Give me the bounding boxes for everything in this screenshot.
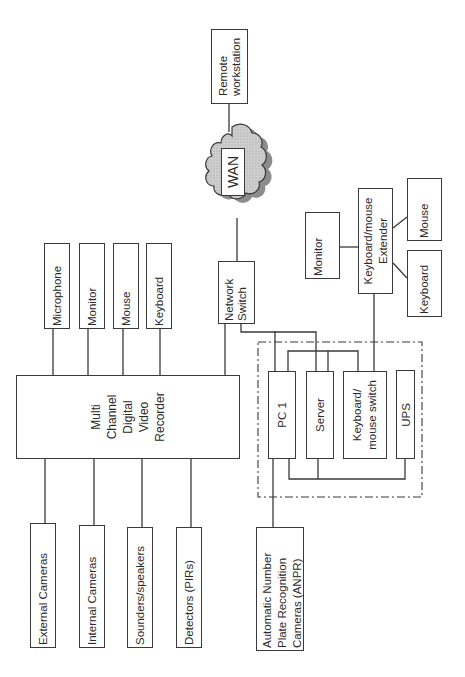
network-switch-label: NetworkSwitch bbox=[223, 279, 249, 321]
extender-mouse-label: Mouse bbox=[418, 203, 431, 238]
internal-cameras-box: Internal Cameras bbox=[79, 525, 105, 648]
detectors-pirs-box: Detectors (PIRs) bbox=[176, 527, 202, 648]
anpr-box: Automatic NumberPlate RecognitionCameras… bbox=[256, 527, 304, 651]
kvm-switch-label: Keyboard/mouse switch bbox=[350, 380, 380, 450]
mouse-box: Mouse bbox=[113, 243, 139, 329]
microphone-box: Microphone bbox=[44, 243, 70, 329]
remote-workstation-box: Remoteworkstation bbox=[211, 29, 248, 104]
monitor-box: Monitor bbox=[79, 243, 105, 329]
extender-keyboard-label: Keyboard bbox=[418, 265, 431, 314]
anpr-label: Automatic NumberPlate RecognitionCameras… bbox=[260, 553, 305, 648]
extender-keyboard-box: Keyboard bbox=[407, 250, 442, 317]
microphone-label: Microphone bbox=[51, 266, 64, 326]
keyboard-label: Keyboard bbox=[153, 277, 166, 326]
extender-mouse-box: Mouse bbox=[407, 178, 442, 241]
kvm-extender-label: Keyboard/mouseExtender bbox=[361, 198, 391, 285]
external-cameras-label: External Cameras bbox=[37, 553, 50, 645]
pc1-label: PC 1 bbox=[276, 402, 289, 428]
monitor-label: Monitor bbox=[86, 288, 99, 326]
network-switch-box: NetworkSwitch bbox=[218, 261, 255, 324]
dvr-box: MultiChannelDigitalVideoRecorder bbox=[16, 375, 240, 459]
server-box: Server bbox=[306, 371, 334, 459]
wan-text: WAN bbox=[227, 156, 240, 188]
dvr-label: MultiChannelDigitalVideoRecorder bbox=[88, 392, 168, 441]
ups-box: UPS bbox=[396, 370, 415, 459]
kvm-extender-box: Keyboard/mouseExtender bbox=[358, 188, 393, 294]
remote-workstation-label: Remoteworkstation bbox=[217, 37, 243, 95]
pc1-box: PC 1 bbox=[268, 371, 296, 459]
extender-monitor-label: Monitor bbox=[312, 238, 325, 276]
mouse-label: Mouse bbox=[120, 291, 133, 326]
keyboard-box: Keyboard bbox=[146, 243, 172, 329]
server-label: Server bbox=[314, 398, 327, 432]
internal-cameras-label: Internal Cameras bbox=[86, 557, 99, 645]
detectors-pirs-label: Detectors (PIRs) bbox=[183, 560, 196, 645]
external-cameras-box: External Cameras bbox=[30, 523, 56, 648]
sounders-speakers-box: Sounders/speakers bbox=[127, 527, 153, 648]
sounders-speakers-label: Sounders/speakers bbox=[134, 546, 147, 645]
wan-label: WAN bbox=[221, 148, 245, 196]
ups-label: UPS bbox=[399, 403, 412, 427]
kvm-switch-box: Keyboard/mouse switch bbox=[343, 371, 387, 459]
extender-monitor-box: Monitor bbox=[305, 212, 340, 279]
